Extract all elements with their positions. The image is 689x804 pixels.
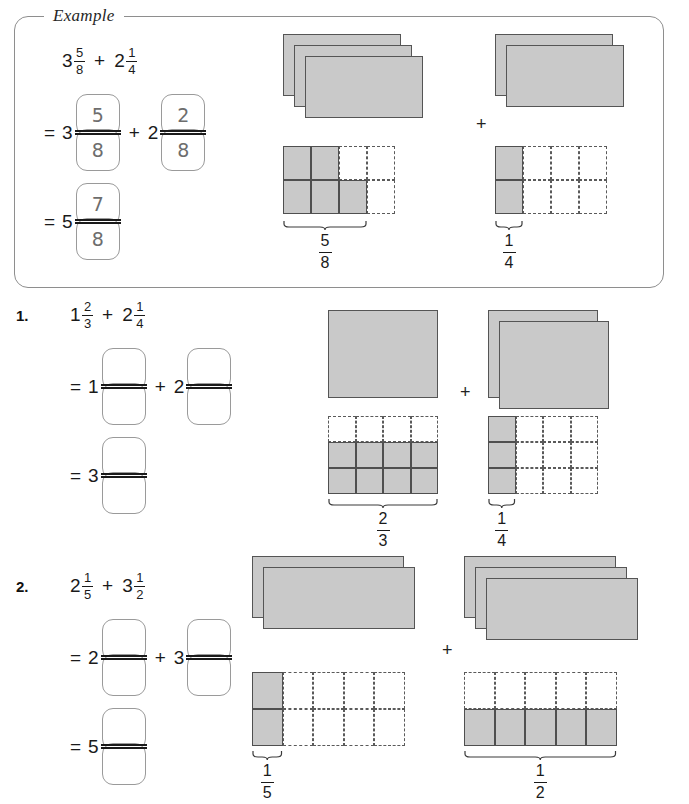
example-operator: + [94,50,105,72]
empty-part-cell [516,468,544,494]
measurement-brace [328,498,438,509]
problem-1-right-whole-stack [488,310,663,406]
shaded-part-cell [488,468,516,494]
fraction-label-denominator: 4 [505,255,514,272]
example-line1-right-whole: 2 [148,122,159,144]
problem-1-line2-denominator-box[interactable] [102,472,146,514]
shaded-part-cell [495,180,523,214]
fraction-bar [377,530,390,532]
empty-part-cell [313,709,344,746]
empty-part-cell [551,146,579,180]
example-left-fraction: 5 8 [74,46,85,76]
example-expression: 3 5 8 + 2 1 4 [62,46,137,76]
shaded-part-cell [495,146,523,180]
problem-1-right-fraction: 1 4 [134,300,145,330]
problem-2-line2-denominator-box[interactable] [102,743,146,785]
problem-2-line1-right-denominator-box[interactable] [187,654,231,696]
problem-1-line1-left-denominator-box[interactable] [102,383,146,425]
fraction-bar [503,252,516,254]
shaded-part-cell [383,468,411,494]
plus-sign: + [155,376,166,398]
shaded-part-cell [488,416,516,442]
example-label: Example [44,6,124,26]
fraction-label-denominator: 3 [379,533,388,550]
fraction-label-denominator: 4 [497,533,506,550]
problem-1-line1-right-denominator-box[interactable] [187,383,231,425]
problem-2-left-denominator: 5 [83,588,92,602]
fraction-label-numerator: 1 [263,763,272,780]
plus-sign: + [129,122,140,144]
shaded-part-cell [411,442,439,468]
example-right-whole-stack [495,34,680,144]
problem-1-line1-left-boxfraction [101,348,147,425]
problem-2-right-part-grid [464,672,617,746]
problem-2-line1-left-boxfraction [101,619,147,696]
problem-2-line1-left-denominator-box[interactable] [102,654,146,696]
equals-sign: = [70,376,81,398]
empty-part-cell [579,146,607,180]
empty-part-cell [516,442,544,468]
empty-part-cell [411,416,439,442]
shaded-part-cell [356,442,384,468]
problem-2-left-whole-stack [252,556,437,666]
problem-2-right-numerator: 1 [135,571,144,585]
equals-sign: = [44,122,55,144]
empty-part-cell [571,442,599,468]
problem-2-left-fraction: 1 5 [82,571,93,601]
fraction-label: 14 [495,233,523,272]
example-left-brace-label: 58 [283,220,367,272]
problem-2-work-line-1: = 2 + 3 [70,619,232,696]
example-left-part-grid [283,146,395,214]
measurement-brace [283,220,367,231]
problem-2-left-whole: 2 [70,575,81,597]
fraction-label-numerator: 2 [379,511,388,528]
problem-1-line2-boxfraction [101,437,147,514]
fraction-bar [186,384,232,389]
problem-1-work-line-1: = 1 + 2 [70,348,232,425]
empty-part-cell [571,416,599,442]
fraction-label: 12 [464,763,617,802]
empty-part-cell [283,672,314,709]
empty-part-cell [356,416,384,442]
example-line1-left-boxfraction: 5 8 [75,94,121,171]
example-line1-left-denominator-box[interactable]: 8 [76,129,120,171]
fraction-bar [75,130,121,135]
empty-part-cell [344,709,375,746]
shaded-part-cell [411,468,439,494]
whole-unit-rectangle [328,310,438,398]
fraction-label-numerator: 1 [536,763,545,780]
shaded-part-cell [495,709,526,746]
example-line2-denominator-box[interactable]: 8 [76,218,120,260]
plus-sign: + [155,647,166,669]
problem-2-diagram: 15 + 12 [252,556,688,796]
problem-1-right-part-grid [488,416,598,494]
problem-2-line2-boxfraction [101,708,147,785]
empty-part-cell [543,468,571,494]
worksheet-page: Example 3 5 8 + 2 1 4 = 3 5 8 + 2 2 8 [0,0,689,804]
problem-1-left-brace-label: 23 [328,498,438,550]
empty-part-cell [344,672,375,709]
problem-1-right-numerator: 1 [135,300,144,314]
empty-part-cell [556,672,587,709]
empty-part-cell [374,672,405,709]
problem-1-line1-left-whole: 1 [88,376,99,398]
fraction-bar [101,744,147,749]
example-line1-right-denominator-box[interactable]: 8 [161,129,205,171]
example-right-part-grid [495,146,607,214]
example-right-denominator: 4 [127,63,136,77]
problem-2-right-whole: 3 [122,575,133,597]
problem-1-line1-right-boxfraction [186,348,232,425]
problem-2-number: 2. [16,578,29,595]
problem-2-work-line-2: = 5 [70,708,147,785]
empty-part-cell [313,672,344,709]
shaded-part-cell [525,709,556,746]
example-line2-boxfraction: 7 8 [75,183,121,260]
empty-part-cell [367,180,395,214]
measurement-brace [495,220,523,231]
problem-1-number: 1. [16,307,29,324]
problem-1-left-denominator: 3 [83,317,92,331]
example-line2-whole: 5 [62,211,73,233]
shaded-part-cell [464,709,495,746]
problem-1-right-denominator: 4 [135,317,144,331]
shaded-part-cell [328,442,356,468]
